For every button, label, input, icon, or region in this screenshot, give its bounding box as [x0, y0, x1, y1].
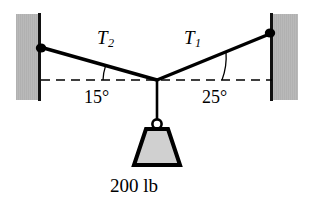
left-anchor-pin: [36, 43, 46, 52]
right-wall-edge: [270, 13, 273, 101]
diagram-canvas: [0, 0, 314, 204]
cable-left-t2: [40, 47, 157, 80]
tension-label-t2-symbol: T: [97, 27, 108, 48]
right-wall: [270, 13, 298, 101]
angle-label-right: 25°: [202, 88, 227, 106]
angle-label-left: 15°: [84, 88, 109, 106]
tension-label-t2: T2: [97, 28, 114, 50]
angle-arc-left: [103, 66, 106, 80]
left-wall: [16, 13, 41, 101]
left-wall-edge: [38, 13, 41, 101]
cable-right-t1: [157, 33, 272, 80]
tension-label-t1-subscript: 1: [195, 36, 201, 50]
right-anchor-pin: [265, 28, 275, 37]
tension-label-t2-subscript: 2: [108, 36, 114, 50]
tension-label-t1: T1: [184, 28, 201, 50]
left-wall-hatching: [16, 14, 41, 100]
angle-arc-right: [222, 52, 226, 80]
right-wall-hatching: [271, 14, 298, 100]
weight-label: 200 lb: [110, 176, 158, 195]
tension-label-t1-symbol: T: [184, 27, 195, 48]
hanging-weight-block: [134, 129, 180, 165]
free-body-diagram: T2 T1 15° 25° 200 lb: [0, 0, 314, 204]
